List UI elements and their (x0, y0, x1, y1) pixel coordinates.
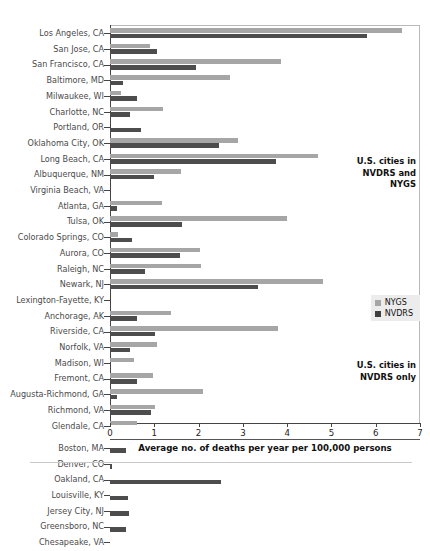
category-label: Lexington-Fayette, KY (16, 293, 104, 309)
bar-pair (110, 262, 420, 278)
bar-pair (110, 340, 420, 356)
chart-legend: NYGS NVDRS (371, 295, 420, 321)
bar-row: Tulsa, OK (0, 214, 430, 230)
category-label: Long Beach, CA (40, 152, 104, 168)
bar-nvdrs (110, 112, 130, 117)
bar-row: San Francisco, CA (0, 57, 430, 73)
bar-nvdrs (110, 49, 157, 54)
bar-pair (110, 277, 420, 293)
x-axis-tick-label: 6 (373, 428, 378, 438)
bar-nvdrs (110, 332, 155, 337)
bar-nygs (110, 75, 230, 80)
bar-pair (110, 230, 420, 246)
bar-nvdrs (110, 511, 129, 516)
x-axis-tick-label: 7 (417, 428, 422, 438)
bar-row: Portland, OR (0, 120, 430, 136)
annotation-nvdrs-only: U.S. cities in NVDRS only (320, 360, 416, 383)
bar-nvdrs (110, 480, 221, 485)
x-axis-title: Average no. of deaths per year per 100,0… (110, 443, 420, 453)
x-axis-tick-label: 1 (152, 428, 157, 438)
bar-nvdrs (110, 81, 123, 86)
bar-pair (110, 387, 420, 403)
bar-nvdrs (110, 348, 130, 353)
category-label: Jersey City, NJ (47, 504, 104, 520)
bar-nygs (110, 169, 181, 174)
bar-nvdrs (110, 527, 126, 532)
bar-pair (110, 403, 420, 419)
annotation-nvdrs-and-nygs: U.S. cities in NVDRS and NYGS (320, 156, 416, 191)
bar-row: Lexington-Fayette, KY (0, 293, 430, 309)
bar-nygs (110, 373, 153, 378)
bar-row: Richmond, VA (0, 403, 430, 419)
category-label: Oakland, CA (54, 472, 104, 488)
bar-nvdrs (110, 238, 132, 243)
bar-nygs (110, 201, 162, 206)
bar-nvdrs (110, 496, 128, 501)
bar-nvdrs (110, 269, 145, 274)
bar-nygs (110, 138, 238, 143)
x-axis-tick (199, 423, 200, 427)
bar-nygs (110, 91, 121, 96)
category-label: Albuquerque, NM (34, 167, 104, 183)
category-label: Portland, OR (53, 120, 104, 136)
bar-nvdrs (110, 410, 151, 415)
bar-row: Greensboro, NC (0, 519, 430, 535)
category-label: Fremont, CA (54, 371, 104, 387)
category-label: San Jose, CA (53, 42, 104, 58)
category-label: San Francisco, CA (32, 57, 104, 73)
legend-item-nvdrs: NVDRS (375, 309, 413, 318)
bar-row: Chesapeake, VA (0, 535, 430, 551)
bar-nvdrs (110, 96, 137, 101)
bar-pair (110, 488, 420, 504)
bar-row: Milwaukee, WI (0, 89, 430, 105)
category-label: Norfolk, VA (59, 340, 104, 356)
bar-row: Los Angeles, CA (0, 26, 430, 42)
category-label: Raleigh, NC (57, 262, 104, 278)
category-label: Richmond, VA (48, 403, 104, 419)
category-label: Glendale, CA (52, 419, 104, 435)
bar-pair (110, 136, 420, 152)
legend-swatch-nygs (375, 300, 381, 306)
bar-nygs (110, 154, 318, 159)
bar-row: Aurora, CO (0, 246, 430, 262)
bar-pair (110, 89, 420, 105)
bar-nvdrs (110, 65, 196, 70)
category-label: Louisville, KY (51, 488, 104, 504)
category-label: Madison, WI (55, 356, 104, 372)
bar-nvdrs (110, 159, 276, 164)
category-label: Augusta-Richmond, GA (10, 387, 104, 403)
category-label: Greensboro, NC (40, 519, 104, 535)
category-label: Virginia Beach, VA (30, 183, 104, 199)
bar-row: Anchorage, AK (0, 309, 430, 325)
bar-nygs (110, 59, 281, 64)
bar-nvdrs (110, 206, 117, 211)
bar-pair (110, 199, 420, 215)
category-label: Charlotte, NC (50, 105, 104, 121)
bar-nvdrs (110, 395, 117, 400)
bar-row: Jersey City, NJ (0, 504, 430, 520)
bar-nvdrs (110, 175, 154, 180)
x-axis-tick-label: 4 (284, 428, 289, 438)
bar-pair (110, 26, 420, 42)
bar-pair (110, 457, 420, 473)
bar-nygs (110, 326, 278, 331)
bar-pair (110, 73, 420, 89)
bar-nygs (110, 28, 402, 33)
bar-row: Baltimore, MD (0, 73, 430, 89)
bar-row: Riverside, CA (0, 324, 430, 340)
bar-pair (110, 504, 420, 520)
bar-pair (110, 324, 420, 340)
bar-pair (110, 214, 420, 230)
x-axis-tick-label: 0 (107, 428, 112, 438)
category-label: Denver, CO (57, 457, 104, 473)
bar-row: Colorado Springs, CO (0, 230, 430, 246)
bar-pair (110, 519, 420, 535)
x-axis-tick (287, 423, 288, 427)
x-axis-tick (420, 423, 421, 427)
category-label: Los Angeles, CA (39, 26, 104, 42)
bar-nvdrs (110, 34, 367, 39)
category-label: Riverside, CA (50, 324, 104, 340)
bar-pair (110, 120, 420, 136)
bar-nygs (110, 264, 201, 269)
bar-nygs (110, 216, 287, 221)
